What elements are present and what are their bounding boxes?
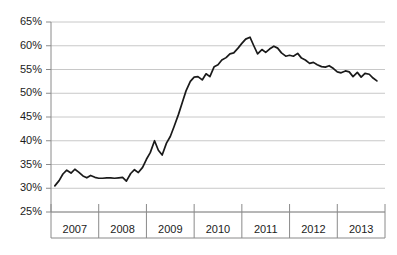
x-axis-ticks: [51, 204, 385, 238]
chart-plot-area: [0, 0, 397, 255]
data-series-line: [55, 37, 377, 186]
gridlines: [51, 22, 385, 212]
y-axis-ticks: [46, 22, 51, 212]
line-chart: 25%30%35%40%45%50%55%60%65% 200720082009…: [0, 0, 397, 255]
